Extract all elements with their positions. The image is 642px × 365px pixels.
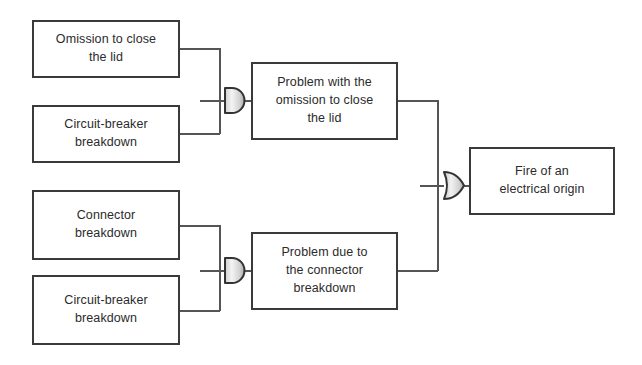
- wire-circuit-breaker-top-stub: [180, 133, 220, 135]
- event-label: Connector breakdown: [75, 207, 137, 243]
- event-box-problem-due-to-connector-breakdown[interactable]: Problem due to the connector breakdown: [251, 232, 398, 310]
- event-box-connector-breakdown[interactable]: Connector breakdown: [32, 190, 180, 260]
- event-box-problem-with-omission-to-close-the-lid[interactable]: Problem with the omission to close the l…: [251, 62, 398, 140]
- fault-tree-diagram: Omission to close the lid Circuit-breake…: [0, 0, 642, 365]
- and-gate-upper[interactable]: [223, 86, 245, 115]
- wire-omission-stub: [180, 48, 220, 50]
- event-box-circuit-breaker-breakdown-top[interactable]: Circuit-breaker breakdown: [32, 105, 180, 163]
- or-gate-top[interactable]: [442, 170, 466, 201]
- event-label: Circuit-breaker breakdown: [64, 292, 147, 328]
- event-box-fire-of-an-electrical-origin[interactable]: Fire of an electrical origin: [469, 147, 615, 215]
- wire-circuit-breaker-bottom-stub: [180, 310, 220, 312]
- wire-problem-omission-stub: [398, 100, 438, 102]
- wire-upper-bracket: [219, 48, 221, 134]
- event-label: Omission to close the lid: [56, 31, 156, 67]
- event-box-circuit-breaker-breakdown-bottom[interactable]: Circuit-breaker breakdown: [32, 275, 180, 345]
- wire-upper-gate-input: [200, 100, 224, 102]
- wire-or-gate-input: [420, 185, 444, 187]
- event-label: Fire of an electrical origin: [499, 163, 584, 199]
- wire-problem-connector-stub: [398, 270, 438, 272]
- wire-connector-stub: [180, 225, 220, 227]
- event-label: Circuit-breaker breakdown: [64, 116, 147, 152]
- wire-lower-gate-input: [200, 270, 224, 272]
- event-label: Problem due to the connector breakdown: [281, 244, 367, 297]
- wire-lower-bracket: [219, 225, 221, 311]
- and-gate-lower[interactable]: [223, 256, 245, 285]
- event-label: Problem with the omission to close the l…: [276, 74, 374, 127]
- event-box-omission-to-close-the-lid[interactable]: Omission to close the lid: [32, 20, 180, 78]
